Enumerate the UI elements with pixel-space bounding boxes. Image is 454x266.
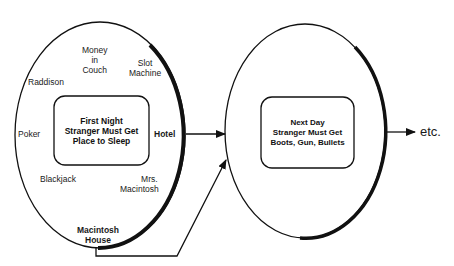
goal-line: First Night [80, 116, 123, 126]
option-slot-machine: Slot Machine [129, 58, 161, 78]
option-blackjack: Blackjack [40, 174, 76, 184]
continuation-label: etc. [420, 124, 441, 139]
label-line: House [77, 235, 119, 245]
label-line: Macintosh [77, 225, 119, 235]
label-line: Machine [129, 68, 161, 78]
goal-line: Stranger Must Get [65, 126, 139, 136]
option-money-in-couch: Money in Couch [82, 45, 108, 75]
goal-line: Place to Sleep [73, 136, 131, 146]
goal-line: Boots, Gun, Bullets [270, 138, 344, 148]
stage1-goal-text: First Night Stranger Must Get Place to S… [54, 96, 149, 165]
label-line: Macintosh [120, 184, 159, 194]
label-line: in [82, 55, 108, 65]
goal-line: Stranger Must Get [273, 128, 342, 138]
label-line: Couch [82, 65, 108, 75]
label-line: Money [82, 45, 108, 55]
goal-line: Next Day [290, 118, 324, 128]
label-line: Slot [129, 58, 161, 68]
option-macintosh-house: Macintosh House [77, 225, 119, 245]
option-mrs-macintosh: Mrs. Macintosh [120, 174, 159, 194]
stage2-goal-text: Next Day Stranger Must Get Boots, Gun, B… [261, 97, 354, 168]
option-poker: Poker [18, 129, 40, 139]
option-hotel: Hotel [154, 129, 175, 139]
option-raddison: Raddison [28, 77, 64, 87]
label-line: Mrs. [120, 174, 159, 184]
